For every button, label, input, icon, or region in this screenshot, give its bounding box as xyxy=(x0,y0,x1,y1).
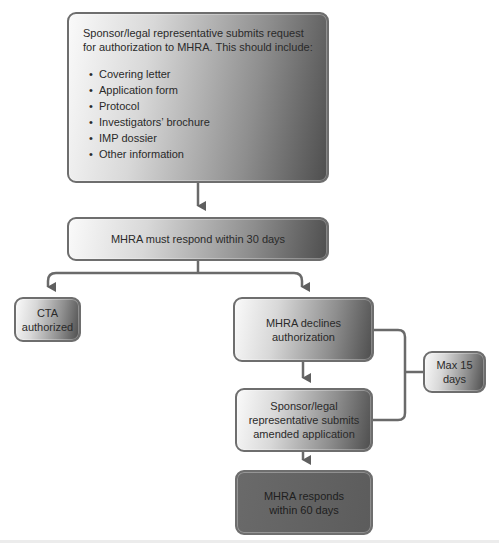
list-item: Protocol xyxy=(89,98,313,114)
arrow-to-decline xyxy=(198,273,302,287)
list-item: Investigators’ brochure xyxy=(89,114,313,130)
cta-authorized-label: CTA authorized xyxy=(16,306,79,334)
respond-30-days-box: MHRA must respond within 30 days xyxy=(67,217,329,261)
cta-authorized-box: CTA authorized xyxy=(14,297,81,342)
list-item: Application form xyxy=(89,82,313,98)
respond-60-days-box: MHRA responds within 60 days xyxy=(235,470,373,535)
respond-30-days-label: MHRA must respond within 30 days xyxy=(111,232,285,246)
arrow-to-cta xyxy=(48,273,198,287)
max-15-days-box: Max 15 days xyxy=(423,351,486,393)
request-box: Sponsor/legal representative submits req… xyxy=(67,12,329,183)
list-item: IMP dossier xyxy=(89,130,313,146)
mhra-declines-box: MHRA declines authorization xyxy=(233,297,374,362)
amended-application-box: Sponsor/legal representative submits ame… xyxy=(235,388,373,452)
request-intro: Sponsor/legal representative submits req… xyxy=(83,26,313,54)
mhra-declines-label: MHRA declines authorization xyxy=(235,316,372,344)
respond-60-days-label: MHRA responds within 60 days xyxy=(237,489,371,517)
request-items-list: Covering letter Application form Protoco… xyxy=(83,66,313,162)
list-item: Other information xyxy=(89,146,313,162)
list-item: Covering letter xyxy=(89,66,313,82)
bracket-max15 xyxy=(373,330,405,420)
amended-application-label: Sponsor/legal representative submits ame… xyxy=(237,399,371,441)
max-15-days-label: Max 15 days xyxy=(425,358,484,386)
